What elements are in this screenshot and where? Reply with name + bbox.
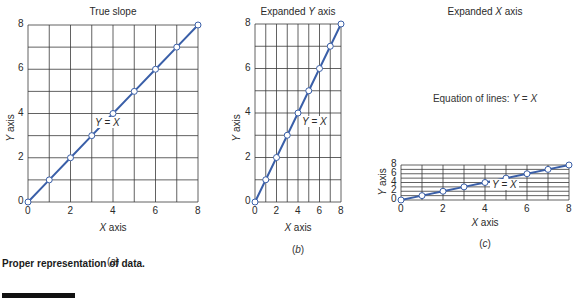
panel-c-plot — [398, 162, 572, 203]
panel-c-xlabel: X axis — [471, 217, 498, 228]
x-tick-label: 0 — [25, 205, 31, 216]
data-point-marker — [419, 193, 425, 199]
panel-b-plot — [252, 21, 344, 205]
data-point-marker — [317, 66, 323, 72]
panel-a-title: True slope — [90, 6, 137, 17]
x-tick-label: 6 — [317, 205, 323, 216]
data-point-marker — [284, 132, 290, 138]
caption-rule — [2, 293, 75, 298]
y-tick-label: 0 — [18, 195, 24, 206]
y-tick-label: 6 — [18, 62, 24, 73]
panel-a-plot — [25, 22, 201, 205]
x-tick-label: 0 — [398, 203, 404, 214]
data-point-marker — [89, 133, 95, 139]
x-tick-label: 2 — [68, 205, 74, 216]
panel-b-title: Expanded Y axis — [260, 6, 335, 17]
y-tick-label: 8 — [245, 17, 251, 28]
data-point-marker — [195, 22, 201, 28]
x-tick-label: 8 — [195, 205, 201, 216]
x-tick-label: 6 — [153, 205, 159, 216]
y-tick-label: 6 — [245, 62, 251, 73]
data-point-marker — [306, 88, 312, 94]
x-tick-label: 4 — [482, 203, 488, 214]
y-tick-label: 2 — [18, 151, 24, 162]
data-point-marker — [110, 111, 116, 117]
panel-b-equation: Y = X — [300, 116, 329, 127]
x-tick-label: 2 — [440, 203, 446, 214]
data-point-marker — [327, 43, 333, 49]
data-point-marker — [440, 188, 446, 194]
panel-c-title: Expanded X axis — [447, 6, 522, 17]
data-point-marker — [482, 180, 488, 186]
y-tick-label: 2 — [245, 151, 251, 162]
data-point-marker — [566, 162, 572, 168]
data-point-marker — [46, 177, 52, 183]
y-tick-label: 8 — [18, 18, 24, 29]
y-tick-label: 4 — [18, 107, 24, 118]
panel-b-ylabel: Y axis — [231, 102, 242, 142]
x-tick-label: 4 — [295, 205, 301, 216]
y-tick-label: 4 — [245, 106, 251, 117]
x-tick-label: 0 — [252, 205, 258, 216]
panel-a-equation: Y = X — [93, 117, 122, 128]
data-point-marker — [263, 177, 269, 183]
x-tick-label: 2 — [274, 205, 280, 216]
panel-b-label: (b) — [292, 244, 304, 255]
panel-c-ylabel: Y axis — [377, 156, 388, 196]
data-point-marker — [461, 184, 467, 190]
panel-a-xlabel: X axis — [99, 222, 126, 233]
data-point-marker — [338, 21, 344, 27]
x-tick-label: 8 — [566, 203, 572, 214]
data-point-marker — [545, 166, 551, 172]
panel-b-xlabel: X axis — [284, 222, 311, 233]
data-point-marker — [68, 155, 74, 161]
data-point-marker — [524, 171, 530, 177]
panel-c-label: (c) — [479, 238, 491, 249]
panel-c-subtitle: Equation of lines: Y = X — [433, 93, 537, 104]
y-tick-label: 8 — [391, 158, 397, 169]
y-tick-label: 0 — [245, 195, 251, 206]
figure-caption: Proper representation of data. — [2, 258, 145, 269]
data-point-marker — [274, 155, 280, 161]
data-point-marker — [131, 88, 137, 94]
panel-a-ylabel-wrap: Y axis — [0, 116, 22, 128]
data-point-marker — [174, 44, 180, 50]
panel-a-ylabel: Y axis — [5, 102, 16, 142]
x-tick-label: 6 — [524, 203, 530, 214]
panel-b-ylabel-wrap: Y axis — [224, 116, 248, 128]
x-tick-label: 4 — [110, 205, 116, 216]
data-point-marker — [153, 66, 159, 72]
x-tick-label: 8 — [338, 205, 344, 216]
panel-c-equation: Y = X — [490, 179, 519, 190]
